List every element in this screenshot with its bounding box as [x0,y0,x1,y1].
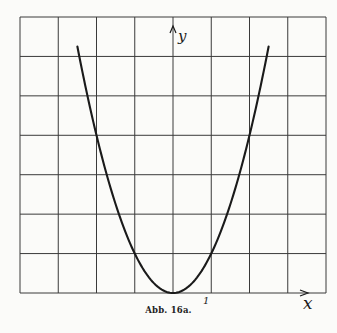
y-axis-label: y [177,27,187,45]
grid [20,17,326,293]
parabola-figure: y x 1 [0,0,337,333]
figure-caption: Abb. 16a. [0,305,337,315]
